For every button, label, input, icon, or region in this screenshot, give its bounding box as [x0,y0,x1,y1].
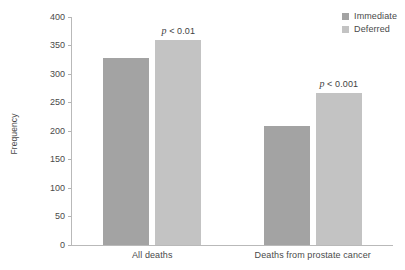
p-value-text: < 0.001 [325,79,359,89]
y-axis-tick-group: 400350300250200150100500 [0,0,72,270]
p-value-annotation-1: p < 0.01 [161,25,195,36]
y-axis-tick: 350 [50,40,72,52]
y-axis-tick-label: 200 [50,127,68,136]
y-axis-tick: 200 [50,125,72,137]
bar-immediate-2 [264,126,310,245]
y-axis-tick-label: 300 [50,70,68,79]
y-axis-tick-label: 400 [50,13,68,22]
y-axis-tick: 100 [50,182,72,194]
p-value-annotation-2: p < 0.001 [319,78,358,89]
legend-label: Deferred [354,25,390,34]
chart-legend: ImmediateDeferred [342,12,397,34]
legend-item-deferred[interactable]: Deferred [342,25,397,34]
y-axis-tick: 250 [50,97,72,109]
y-axis-tick-label: 50 [55,212,68,221]
y-axis-tick-label: 150 [50,155,68,164]
legend-label: Immediate [354,12,397,21]
bar-immediate-1 [103,58,149,245]
y-axis-tick: 150 [50,154,72,166]
y-axis-tick: 400 [50,11,72,23]
p-value-text: < 0.01 [167,26,195,36]
y-axis-tick-label: 250 [50,98,68,107]
bar-chart-figure: Frequency 400350300250200150100500 p < 0… [0,0,405,270]
y-axis-tick-label: 350 [50,41,68,50]
y-axis-tick: 300 [50,68,72,80]
y-axis-tick-label: 100 [50,184,68,193]
x-axis-line [71,245,393,246]
plot-area: p < 0.01p < 0.001 [72,17,393,245]
x-axis-category-label: All deaths [132,250,173,260]
legend-swatch-icon [342,26,349,33]
y-axis-tick: 50 [55,211,72,223]
legend-item-immediate[interactable]: Immediate [342,12,397,21]
bar-deferred-2 [316,93,362,245]
legend-swatch-icon [342,13,349,20]
bar-deferred-1 [155,40,201,245]
x-axis-category-label: Deaths from prostate cancer [255,250,371,260]
y-axis-tick-label: 0 [60,241,68,250]
